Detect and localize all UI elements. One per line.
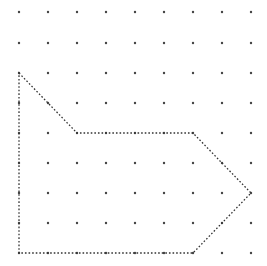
grid-dot (192, 11, 194, 13)
grid-dot (192, 72, 194, 74)
grid-dot (250, 72, 252, 74)
grid-dot (105, 192, 107, 194)
grid-dot (47, 222, 49, 224)
grid-dot (18, 102, 20, 104)
grid-dot (47, 132, 49, 134)
grid-dot (163, 222, 165, 224)
grid-dot (47, 72, 49, 74)
grid-dot (250, 132, 252, 134)
grid-dot (76, 11, 78, 13)
grid-dot (221, 11, 223, 13)
grid-dot (47, 162, 49, 164)
grid-dot (221, 132, 223, 134)
grid-dot (250, 102, 252, 104)
grid-dot (250, 162, 252, 164)
grid-dot (47, 192, 49, 194)
grid-dot (163, 192, 165, 194)
grid-dot (134, 192, 136, 194)
grid-dot (221, 192, 223, 194)
grid-dot (192, 222, 194, 224)
grid-dot (47, 42, 49, 44)
grid-dot (134, 11, 136, 13)
grid-dot (163, 11, 165, 13)
grid-dot (163, 162, 165, 164)
grid-dot (76, 42, 78, 44)
grid-dot (76, 72, 78, 74)
grid-dot (105, 222, 107, 224)
grid-dot (192, 42, 194, 44)
grid-dot (18, 192, 20, 194)
grid-dot (105, 11, 107, 13)
dot-grid-canvas (0, 0, 267, 266)
dot-grid-diagram (0, 0, 267, 266)
grid-dot (250, 252, 252, 254)
grid-dot (105, 162, 107, 164)
grid-dot (192, 102, 194, 104)
grid-dot (250, 222, 252, 224)
grid-dot (221, 102, 223, 104)
grid-dot (134, 222, 136, 224)
grid-dot (221, 252, 223, 254)
grid-dot (134, 162, 136, 164)
grid-dot (163, 42, 165, 44)
grid-dot (76, 222, 78, 224)
grid-dot (76, 162, 78, 164)
grid-dot (163, 102, 165, 104)
grid-dot (76, 192, 78, 194)
grid-dot (221, 42, 223, 44)
grid-dot (105, 72, 107, 74)
grid-dot (221, 72, 223, 74)
grid-dot (192, 192, 194, 194)
grid-dot (105, 102, 107, 104)
grid-dot (134, 42, 136, 44)
grid-dot (105, 42, 107, 44)
grid-dot (250, 42, 252, 44)
grid-dot (134, 102, 136, 104)
grid-dot (47, 11, 49, 13)
grid-dot (76, 102, 78, 104)
grid-dot (18, 11, 20, 13)
grid-dot (250, 11, 252, 13)
grid-dot (163, 72, 165, 74)
grid-dot (192, 162, 194, 164)
grid-dot (134, 72, 136, 74)
grid-dot (18, 42, 20, 44)
